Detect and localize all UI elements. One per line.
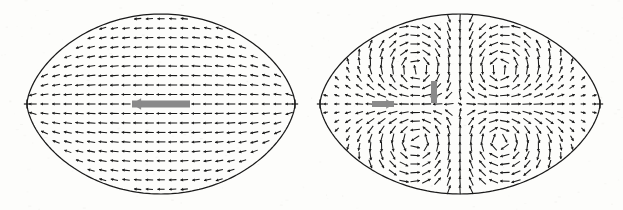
vector-field-figure	[0, 0, 623, 210]
